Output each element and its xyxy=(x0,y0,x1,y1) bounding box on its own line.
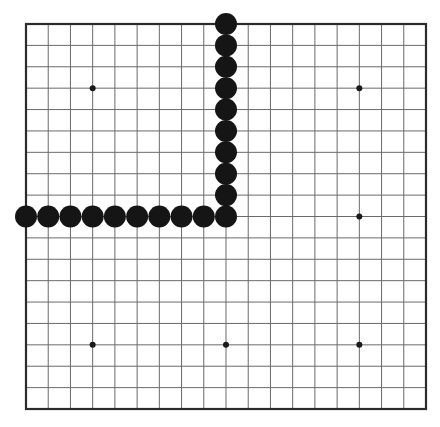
star-point xyxy=(356,214,362,220)
black-stone xyxy=(82,206,104,228)
black-stone xyxy=(37,206,59,228)
star-point xyxy=(356,342,362,348)
star-point xyxy=(223,342,229,348)
black-stone xyxy=(215,34,237,56)
black-stone xyxy=(215,99,237,121)
black-stone xyxy=(104,206,126,228)
black-stone xyxy=(215,56,237,78)
black-stone xyxy=(215,13,237,35)
black-stone xyxy=(59,206,81,228)
black-stone xyxy=(215,141,237,163)
black-stone xyxy=(193,206,215,228)
black-stone xyxy=(215,184,237,206)
black-stone xyxy=(148,206,170,228)
black-stone xyxy=(215,77,237,99)
black-stone xyxy=(215,163,237,185)
black-stone xyxy=(171,206,193,228)
black-stone xyxy=(126,206,148,228)
go-board-canvas[interactable] xyxy=(0,0,440,427)
go-board[interactable] xyxy=(0,0,440,427)
black-stone xyxy=(215,120,237,142)
black-stone xyxy=(215,206,237,228)
black-stone xyxy=(15,206,37,228)
star-point xyxy=(90,85,96,91)
star-point xyxy=(90,342,96,348)
star-point xyxy=(356,85,362,91)
